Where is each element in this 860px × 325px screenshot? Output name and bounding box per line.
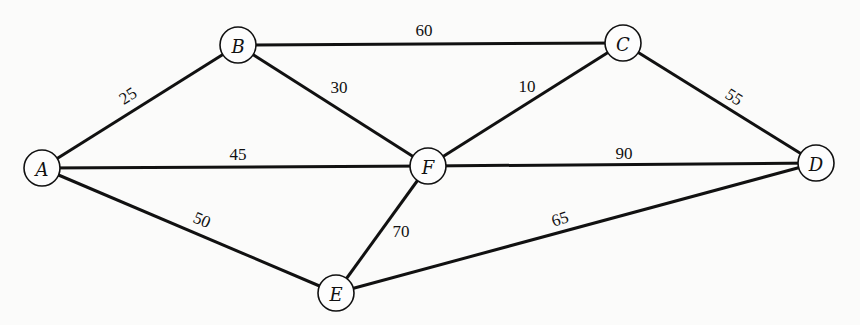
node-d: D xyxy=(798,145,834,181)
edge-weight-b-f: 30 xyxy=(331,78,348,97)
edge-a-f xyxy=(42,166,428,168)
node-label: A xyxy=(34,159,49,180)
edge-weight-a-b: 25 xyxy=(116,83,141,108)
node-f: F xyxy=(410,148,446,184)
edge-b-c xyxy=(238,43,623,45)
edge-f-c xyxy=(428,43,623,166)
edge-f-d xyxy=(428,163,816,166)
edge-weight-e-d: 65 xyxy=(549,207,571,230)
edge-a-b xyxy=(42,45,238,168)
weighted-graph-diagram: 25603045105590507065 ABCDFE xyxy=(0,0,860,325)
edge-a-e xyxy=(42,168,336,293)
edge-c-d xyxy=(623,43,816,163)
edge-weight-b-c: 60 xyxy=(416,21,433,40)
node-label: D xyxy=(808,154,824,175)
edge-b-f xyxy=(238,45,428,166)
edge-weight-a-f: 45 xyxy=(230,145,247,164)
edge-weight-a-e: 50 xyxy=(190,208,213,232)
node-e: E xyxy=(318,275,354,311)
node-label: B xyxy=(230,36,244,57)
edge-f-e xyxy=(336,166,428,293)
edge-weight-f-c: 10 xyxy=(519,77,536,96)
node-c: C xyxy=(605,25,641,61)
node-a: A xyxy=(24,150,60,186)
node-label: F xyxy=(421,157,436,178)
graph-canvas: 25603045105590507065 ABCDFE xyxy=(0,0,860,325)
edge-weight-f-e: 70 xyxy=(393,222,410,241)
node-label: C xyxy=(616,34,630,55)
node-label: E xyxy=(328,284,342,305)
edge-weight-f-d: 90 xyxy=(616,144,633,163)
node-b: B xyxy=(220,27,256,63)
